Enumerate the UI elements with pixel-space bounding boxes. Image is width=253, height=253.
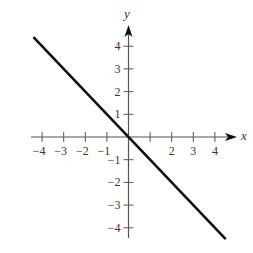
- data-series: [33, 37, 225, 239]
- y-tick-label: 2: [115, 85, 121, 99]
- y-tick-label: −4: [108, 221, 121, 235]
- x-tick-label: 3: [190, 144, 196, 158]
- axes: [31, 25, 237, 238]
- line-series: [33, 37, 225, 239]
- x-tick-label: 4: [212, 144, 218, 158]
- x-tick-label: −3: [54, 144, 67, 158]
- y-tick-label: −2: [108, 175, 121, 189]
- chart: −4−3−2−12344321−1−2−3−4 x y: [0, 0, 253, 253]
- y-axis-label: y: [122, 6, 130, 21]
- x-axis-label: x: [240, 128, 247, 143]
- x-tick-label: −4: [33, 144, 46, 158]
- x-tick-label: 2: [169, 144, 175, 158]
- y-tick-label: −3: [108, 198, 121, 212]
- y-tick-label: 3: [115, 62, 121, 76]
- y-tick-label: 4: [115, 39, 121, 53]
- y-tick-label: −1: [108, 153, 121, 167]
- x-tick-label: −2: [76, 144, 89, 158]
- y-tick-label: 1: [115, 107, 121, 121]
